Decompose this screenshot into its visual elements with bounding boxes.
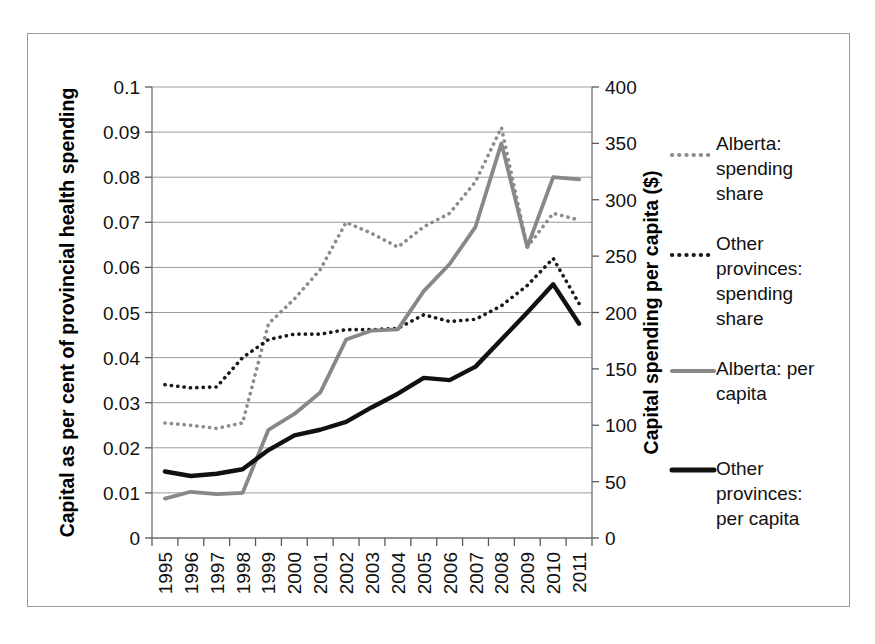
legend-label-0: share — [716, 183, 764, 204]
x-tick-label-1997: 1997 — [207, 552, 228, 594]
y-left-tick-label: 0.02 — [103, 438, 140, 459]
x-tick-label-1998: 1998 — [233, 552, 254, 594]
y-left-tick-label: 0.03 — [103, 393, 140, 414]
legend-label-3: provinces: — [716, 483, 803, 504]
y-left-tick-label: 0.09 — [103, 122, 140, 143]
y-left-tick-label: 0.06 — [103, 257, 140, 278]
x-tick-label-2002: 2002 — [336, 552, 357, 594]
y-right-tick-label: 150 — [605, 359, 637, 380]
x-tick-label-2006: 2006 — [440, 552, 461, 594]
y-left-tick-label: 0 — [129, 528, 140, 549]
y-right-tick-label: 300 — [605, 190, 637, 211]
legend-label-2: capita — [716, 383, 767, 404]
y-left-tick-label: 0.01 — [103, 483, 140, 504]
series-line-other-provinces-per-capita — [165, 284, 579, 476]
y-left-tick-label: 0.04 — [103, 348, 140, 369]
x-tick-label-1996: 1996 — [181, 552, 202, 594]
legend-group: Alberta:spendingshareOtherprovinces:spen… — [672, 133, 815, 529]
y-left-tick-label: 0.08 — [103, 167, 140, 188]
y-left-tick-label: 0.07 — [103, 212, 140, 233]
x-tick-label-2009: 2009 — [517, 552, 538, 594]
y-right-tick-label: 200 — [605, 303, 637, 324]
y-left-tick-label: 0.1 — [114, 77, 140, 98]
legend-label-1: spending — [716, 283, 793, 304]
x-tick-label-2005: 2005 — [414, 552, 435, 594]
series-line-alberta-spending-share — [165, 128, 579, 429]
x-tick-label-2000: 2000 — [284, 552, 305, 594]
x-tick-label-1999: 1999 — [258, 552, 279, 594]
y-axis-left-title: Capital as per cent of provincial health… — [56, 88, 78, 538]
y-right-tick-label: 250 — [605, 246, 637, 267]
legend-label-0: Alberta: — [716, 133, 781, 154]
legend-label-1: share — [716, 308, 764, 329]
data-series-group — [165, 128, 579, 499]
legend-label-1: Other — [716, 233, 764, 254]
axes-group — [145, 87, 599, 546]
legend-label-3: per capita — [716, 508, 800, 529]
x-tick-label-2001: 2001 — [310, 552, 331, 594]
y-right-tick-label: 0 — [605, 528, 616, 549]
y-left-tick-label: 0.05 — [103, 303, 140, 324]
x-tick-label-1995: 1995 — [155, 552, 176, 594]
x-tick-label-2008: 2008 — [491, 552, 512, 594]
y-right-tick-label: 100 — [605, 415, 637, 436]
x-tick-label-2010: 2010 — [543, 552, 564, 594]
y-right-tick-label: 350 — [605, 133, 637, 154]
y-axis-right-title: Capital spending per capita ($) — [640, 171, 662, 455]
y-right-tick-label: 400 — [605, 77, 637, 98]
legend-label-2: Alberta: per — [716, 358, 815, 379]
line-chart: 00.010.020.030.040.050.060.070.080.090.1… — [0, 0, 875, 644]
legend-label-3: Other — [716, 458, 764, 479]
x-tick-label-2007: 2007 — [466, 552, 487, 594]
y-right-tick-label: 50 — [605, 472, 626, 493]
chart-container: 00.010.020.030.040.050.060.070.080.090.1… — [0, 0, 875, 644]
legend-label-1: provinces: — [716, 258, 803, 279]
x-tick-label-2003: 2003 — [362, 552, 383, 594]
x-tick-label-2004: 2004 — [388, 552, 409, 595]
x-tick-label-2011: 2011 — [569, 552, 590, 593]
legend-label-0: spending — [716, 158, 793, 179]
